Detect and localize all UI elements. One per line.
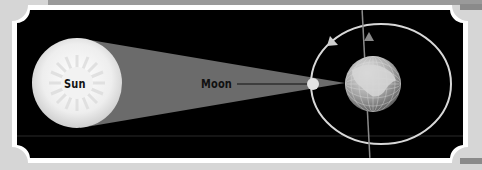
sun-label: Sun: [64, 77, 86, 91]
earth-icon: [345, 56, 401, 112]
moon-label: Moon: [201, 77, 232, 91]
moon-icon: [307, 78, 319, 90]
